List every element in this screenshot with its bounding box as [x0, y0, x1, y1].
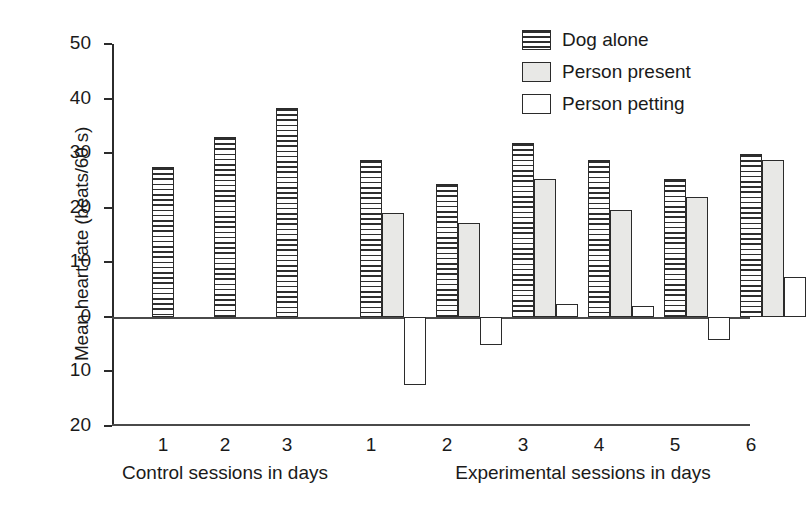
y-tick-label: 10: [70, 250, 91, 272]
bar-exp-person-petting-6: [784, 277, 806, 317]
cropped-caption-fragment: [767, 288, 781, 438]
x-tick-label: 3: [518, 434, 529, 456]
y-tick-label: 30: [70, 141, 91, 163]
legend-item-person-petting: Person petting: [522, 88, 691, 120]
x-group-label-experimental: Experimental sessions in days: [455, 462, 711, 484]
x-tick-label: 2: [442, 434, 453, 456]
bar-exp-dog-alone-2: [436, 184, 458, 317]
y-tick: 20: [104, 425, 112, 427]
bar-exp-dog-alone-1: [360, 160, 382, 317]
bar-exp-person-present-1: [382, 213, 404, 317]
y-tick-label: 0: [80, 305, 91, 327]
legend-swatch-person-petting-icon: [522, 94, 551, 114]
y-tick-label: 10: [70, 359, 91, 381]
legend-item-person-present: Person present: [522, 56, 691, 88]
x-axis-line: [112, 424, 750, 426]
legend: Dog alone Person present Person petting: [522, 24, 691, 120]
bar-exp-person-petting-3: [556, 304, 578, 317]
x-tick-label: 2: [220, 434, 231, 456]
y-tick: 0: [104, 316, 112, 318]
bar-exp-person-present-5: [686, 197, 708, 317]
bar-exp-person-present-3: [534, 179, 556, 317]
x-tick-label: 3: [282, 434, 293, 456]
y-tick: 40: [104, 98, 112, 100]
y-tick-label: 20: [70, 196, 91, 218]
x-tick-label: 6: [746, 434, 757, 456]
legend-label-dog-alone: Dog alone: [562, 29, 649, 51]
y-tick: 20: [104, 207, 112, 209]
y-tick-label: 50: [70, 32, 91, 54]
legend-item-dog-alone: Dog alone: [522, 24, 691, 56]
y-tick-label: 40: [70, 87, 91, 109]
bar-exp-person-petting-4: [632, 306, 654, 317]
y-tick-label: 20: [70, 414, 91, 436]
bar-control-dog-alone-1: [152, 167, 174, 317]
bar-exp-person-present-4: [610, 210, 632, 316]
bar-control-dog-alone-2: [214, 137, 236, 317]
x-tick-label: 5: [670, 434, 681, 456]
legend-swatch-person-present-icon: [522, 62, 551, 82]
bar-exp-person-petting-1: [404, 317, 426, 385]
y-tick: 10: [104, 370, 112, 372]
bar-control-dog-alone-3: [276, 108, 298, 316]
x-tick-label: 1: [158, 434, 169, 456]
legend-label-person-present: Person present: [562, 61, 691, 83]
bar-exp-person-petting-5: [708, 317, 730, 340]
x-group-label-control: Control sessions in days: [122, 462, 328, 484]
legend-label-person-petting: Person petting: [562, 93, 685, 115]
legend-swatch-dog-alone-icon: [522, 30, 551, 50]
y-tick: 50: [104, 43, 112, 45]
bar-exp-dog-alone-6: [740, 154, 762, 317]
zero-baseline: [112, 317, 750, 319]
y-tick: 10: [104, 261, 112, 263]
bar-exp-dog-alone-4: [588, 160, 610, 317]
bar-exp-dog-alone-5: [664, 179, 686, 317]
y-axis-line: [112, 44, 114, 426]
y-tick: 30: [104, 152, 112, 154]
x-tick-label: 1: [366, 434, 377, 456]
bar-exp-person-present-2: [458, 223, 480, 317]
x-tick-label: 4: [594, 434, 605, 456]
bar-exp-dog-alone-3: [512, 143, 534, 317]
bar-exp-person-petting-2: [480, 317, 502, 345]
